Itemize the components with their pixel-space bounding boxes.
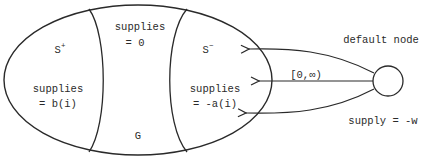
s-plus-divider — [89, 9, 103, 152]
set-superscript: − — [209, 42, 214, 50]
edge-bottom-arrow — [246, 89, 374, 113]
set-superscript: + — [61, 42, 66, 50]
s-minus-supplies-value: = -a(i) — [193, 99, 237, 110]
s-minus-supplies-label: supplies — [190, 84, 240, 95]
default-node-circle — [373, 66, 403, 96]
graph-g-label: G — [135, 131, 141, 142]
s-plus-supplies-value: = b(i) — [39, 99, 77, 110]
s-minus-divider — [170, 9, 187, 152]
middle-supplies-label: supplies — [115, 22, 165, 33]
middle-supplies-value: = 0 — [126, 38, 145, 49]
default-node-supply-label: supply = -w — [348, 116, 417, 127]
s-plus-set-label: S+ — [55, 45, 66, 56]
flow-network-diagram: S+ supplies = b(i) supplies = 0 G S− sup… — [0, 0, 428, 166]
edge-capacity-label: [0,∞) — [290, 70, 322, 81]
default-node-label: default node — [343, 35, 419, 46]
s-minus-set-label: S− — [203, 45, 214, 56]
s-plus-supplies-label: supplies — [33, 84, 83, 95]
